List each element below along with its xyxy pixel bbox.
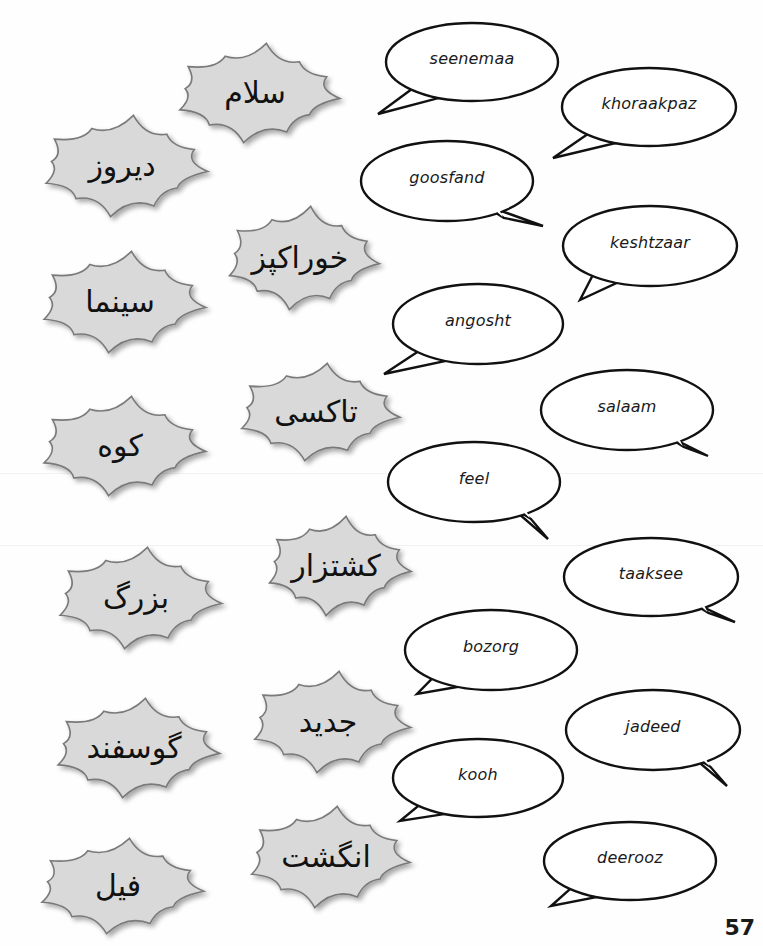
persian-word-salaam: سلام: [224, 78, 286, 108]
persian-word-jadeed: جدید: [299, 707, 357, 737]
persian-word-khoraakpaz: خوراکپز: [252, 243, 349, 273]
transliteration-jadeed: jadeed: [625, 719, 680, 735]
transliteration-taaksee: taaksee: [619, 566, 684, 582]
speech-bubble-jadeed: [566, 690, 740, 786]
persian-word-seenemaa: سینما: [85, 287, 155, 317]
persian-word-angosht: انگشت: [281, 842, 370, 872]
persian-word-keshtzaar: کشتزار: [291, 551, 380, 581]
persian-word-goosfand: گوسفند: [87, 733, 182, 763]
persian-word-taaksee: تاکسی: [274, 397, 358, 427]
persian-word-kooh: کوه: [97, 431, 143, 461]
transliteration-bozorg: bozorg: [463, 639, 519, 655]
speech-bubble-group: [361, 23, 740, 906]
transliteration-salaam: salaam: [598, 399, 657, 415]
artwork-layer: [0, 0, 763, 946]
page-number: 57: [724, 915, 755, 940]
transliteration-deerooz: deerooz: [597, 850, 663, 866]
transliteration-angosht: angosht: [445, 313, 511, 329]
speech-bubble-khoraakpaz: [553, 68, 736, 158]
transliteration-khoraakpaz: khoraakpaz: [601, 96, 696, 112]
transliteration-keshtzaar: keshtzaar: [610, 235, 690, 251]
transliteration-goosfand: goosfand: [409, 170, 484, 186]
speech-bubble-seenemaa: [378, 23, 558, 114]
transliteration-feel: feel: [459, 471, 490, 487]
transliteration-kooh: kooh: [458, 767, 498, 783]
persian-word-feel: فیل: [95, 871, 141, 901]
persian-word-deerooz: دیروز: [88, 151, 155, 181]
persian-word-bozorg: بزرگ: [103, 583, 169, 613]
worksheet-page: سلامدیروزخوراکپزسینماتاکسیکوهکشتزاربزرگج…: [0, 0, 763, 946]
transliteration-seenemaa: seenemaa: [430, 51, 515, 67]
speech-bubble-feel: [388, 442, 560, 539]
speech-bubble-keshtzaar: [563, 206, 737, 300]
